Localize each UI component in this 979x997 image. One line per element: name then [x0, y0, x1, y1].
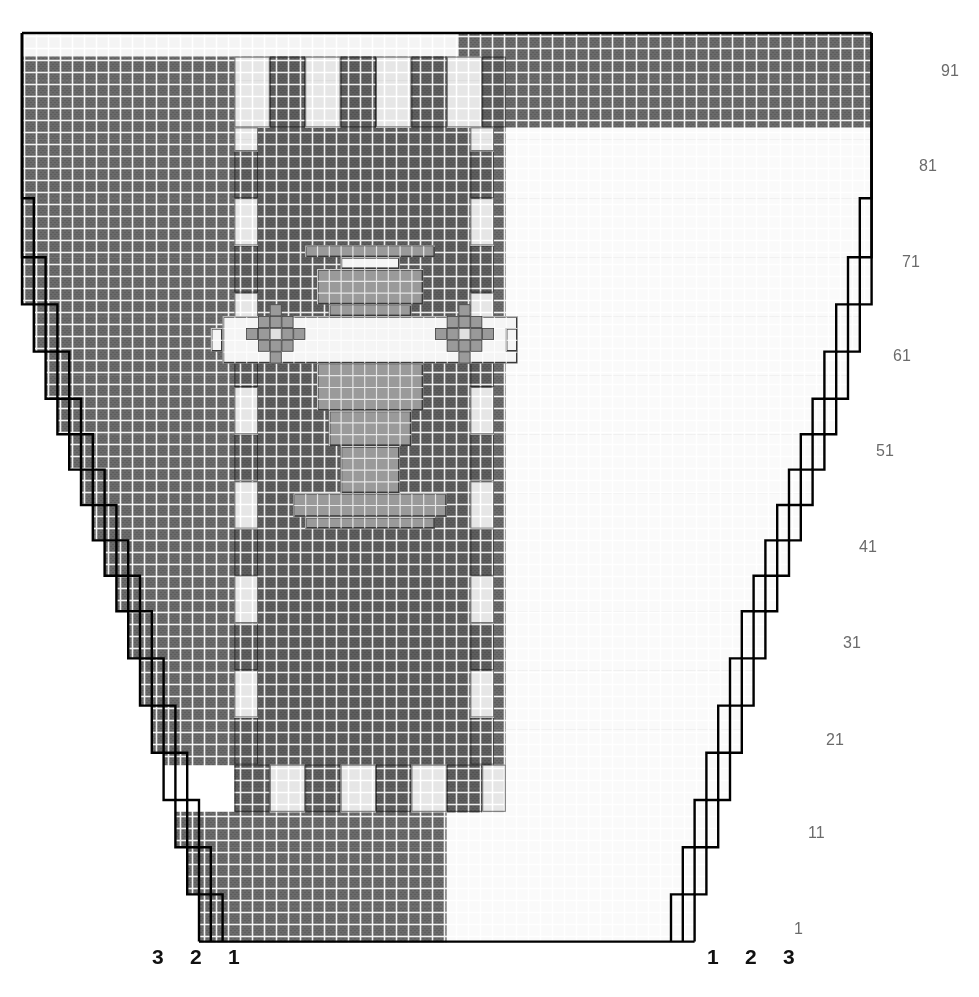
row-number-11: 11 — [808, 824, 825, 842]
row-number-21: 21 — [826, 731, 844, 749]
row-number-81: 81 — [919, 157, 937, 175]
size-label-right-2: 2 — [745, 945, 757, 969]
row-number-51: 51 — [876, 442, 894, 460]
row-number-61: 61 — [893, 347, 911, 365]
size-label-left-1: 1 — [228, 945, 240, 969]
row-number-1: 1 — [794, 920, 803, 938]
row-number-41: 41 — [859, 538, 877, 556]
row-number-71: 71 — [902, 253, 920, 271]
size-label-right-1: 1 — [707, 945, 719, 969]
row-number-31: 31 — [843, 634, 861, 652]
chart-page: SLEEVES 9181716151413121111 321 123 — [0, 0, 979, 997]
size-label-right-3: 3 — [783, 945, 795, 969]
size-label-left-2: 2 — [190, 945, 202, 969]
row-number-91: 91 — [941, 62, 959, 80]
stitch-chart — [0, 0, 979, 997]
size-label-left-3: 3 — [152, 945, 164, 969]
